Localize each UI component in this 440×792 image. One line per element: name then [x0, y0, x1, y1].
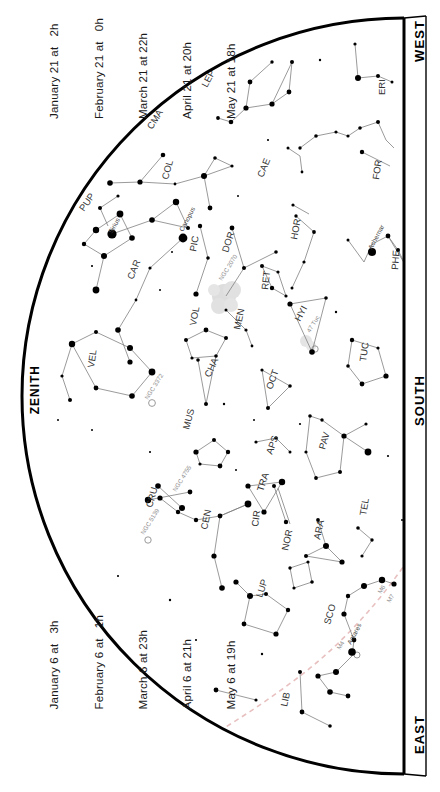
- date-line: May 6 at 19h: [224, 615, 239, 709]
- date-line: April 6 at 21h: [180, 615, 195, 709]
- svg-text:RET: RET: [259, 270, 272, 290]
- star-chart: CMA LEP COL CAE ERI FOR PUP CAR PIC DOR …: [0, 0, 440, 792]
- svg-text:ERI: ERI: [376, 79, 387, 95]
- date-line: March 21 at 22h: [136, 18, 151, 119]
- date-line: February 6 at 1h: [92, 615, 107, 709]
- compass-label-zenith: ZENITH: [28, 365, 42, 414]
- compass-label-south: SOUTH: [412, 375, 427, 426]
- date-line: January 21 at 2h: [47, 18, 62, 119]
- date-line: March 6 at 23h: [136, 615, 151, 709]
- date-line: April 21 at 20h: [180, 18, 195, 119]
- svg-text:PHE: PHE: [389, 250, 401, 270]
- visibility-dates-bottom: January 6 at 3h February 6 at 1h March 6…: [18, 615, 268, 709]
- visibility-dates-top: January 21 at 2h February 21 at 0h March…: [18, 18, 268, 119]
- compass-label-east: EAST: [412, 715, 427, 754]
- svg-text:CIR: CIR: [249, 509, 262, 527]
- date-line: February 21 at 0h: [92, 18, 107, 119]
- date-line: May 21 at 18h: [224, 18, 239, 119]
- date-line: January 6 at 3h: [47, 615, 62, 709]
- compass-label-west: WEST: [412, 20, 427, 62]
